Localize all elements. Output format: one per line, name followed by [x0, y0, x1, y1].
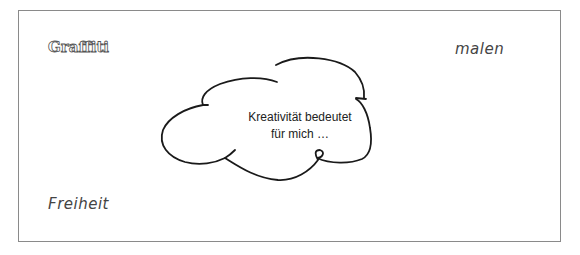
cloud-line-1: Kreativität bedeutet	[210, 109, 390, 126]
cloud-line-2: für mich …	[210, 126, 390, 143]
cloud-prompt-text: Kreativität bedeutet für mich …	[210, 109, 390, 143]
